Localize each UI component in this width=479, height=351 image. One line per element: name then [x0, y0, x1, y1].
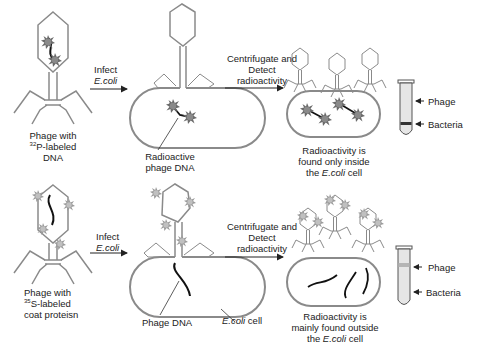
phage-35s-icon	[14, 185, 92, 284]
dna-32p-icon	[41, 35, 62, 67]
radioactive-dna-label: Radioactive phage DNA	[130, 151, 210, 173]
phage-32p-icon	[14, 12, 92, 124]
centrifuge-label-2: Centrifugate and Detect radioactivity	[212, 221, 312, 254]
centrifuge-tube-1	[398, 80, 424, 135]
phage-35s-label: Phage with 35S-labeled coat proteisn	[24, 287, 78, 320]
result-label-2: Radioactivity is mainly found outside th…	[280, 311, 390, 344]
result-label-1: Radioactivity is found only inside the E…	[288, 145, 380, 178]
tube-1-phage-label: Phage	[428, 96, 455, 107]
tube-2-phage-label: Phage	[428, 262, 455, 273]
phage-dna-label: Phage DNA	[132, 317, 202, 328]
infect-label-2: Infect E.coli	[96, 231, 119, 253]
injected-dna-32p	[158, 99, 197, 150]
tube-2-bacteria-label: Bacteria	[426, 287, 461, 298]
phage-32p-label: Phage with 32P-labeled DNA	[12, 130, 94, 163]
centrifuge-tube-2	[396, 246, 422, 305]
infect-label-1: Infect E.coli	[94, 64, 117, 86]
ecoli-cell-label: E.coli cell	[222, 315, 262, 326]
centrifuge-label-1: Centrifugate and Detect radioactivity	[212, 53, 312, 86]
tube-1-bacteria-label: Bacteria	[428, 119, 463, 130]
